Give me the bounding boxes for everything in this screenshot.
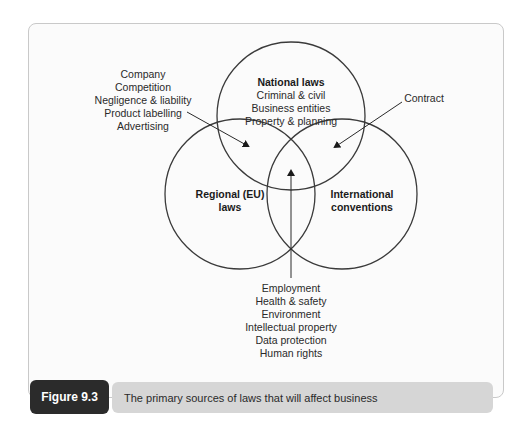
international-conventions-title-line: International — [312, 188, 412, 201]
regional-laws-text: Regional (EU) laws — [180, 188, 280, 214]
national-laws-item: Property & planning — [231, 115, 351, 128]
international-conventions-title-line: conventions — [312, 201, 412, 214]
callout-item: Intellectual property — [226, 321, 356, 334]
callout-item: Negligence & liability — [80, 94, 206, 107]
national-laws-item: Criminal & civil — [231, 89, 351, 102]
regional-laws-title-line: Regional (EU) — [180, 188, 280, 201]
callout-national-regional: Company Competition Negligence & liabili… — [80, 68, 206, 133]
callout-item: Advertising — [80, 120, 206, 133]
international-conventions-text: International conventions — [312, 188, 412, 214]
venn-diagram — [0, 0, 531, 440]
callout-item: Company — [80, 68, 206, 81]
national-laws-item: Business entities — [231, 102, 351, 115]
figure-caption: The primary sources of laws that will af… — [112, 382, 493, 413]
callout-item: Contract — [394, 92, 454, 105]
figure-label: Figure 9.3 — [30, 380, 109, 414]
national-laws-text: National laws Criminal & civil Business … — [231, 76, 351, 128]
callout-all-three: Employment Health & safety Environment I… — [226, 282, 356, 360]
callout-item: Product labelling — [80, 107, 206, 120]
callout-item: Data protection — [226, 334, 356, 347]
regional-laws-title-line: laws — [180, 201, 280, 214]
callout-item: Human rights — [226, 347, 356, 360]
callout-item: Environment — [226, 308, 356, 321]
national-laws-title: National laws — [231, 76, 351, 89]
callout-national-international: Contract — [394, 92, 454, 105]
callout-item: Employment — [226, 282, 356, 295]
callout-item: Competition — [80, 81, 206, 94]
callout-item: Health & safety — [226, 295, 356, 308]
